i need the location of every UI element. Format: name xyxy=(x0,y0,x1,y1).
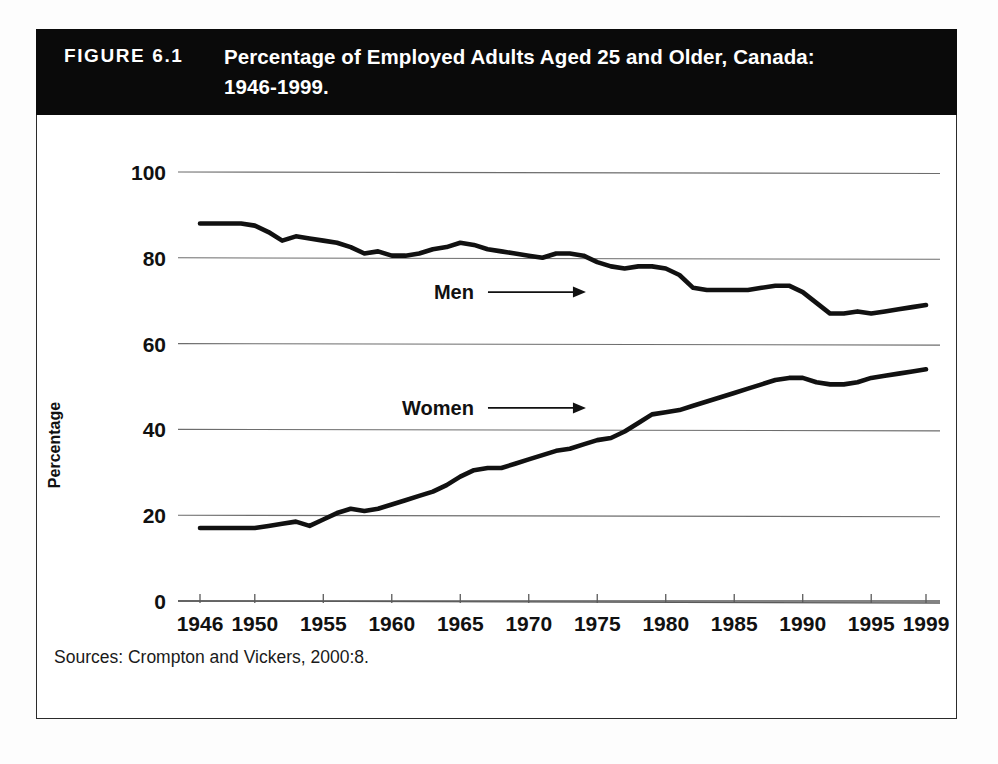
x-axis xyxy=(178,594,940,603)
series-annotations: MenWomen xyxy=(402,281,586,419)
y-tick-label: 40 xyxy=(143,418,166,441)
annotation-label-men: Men xyxy=(434,281,474,303)
x-tick-label: 1975 xyxy=(574,612,621,635)
x-tick-label: 1946 xyxy=(177,612,224,635)
x-tick-label: 1970 xyxy=(505,612,552,635)
x-tick-label: 1990 xyxy=(779,612,826,635)
series-line-men xyxy=(200,223,926,313)
x-tick-label: 1960 xyxy=(368,612,415,635)
y-tick-label: 0 xyxy=(154,590,166,613)
gridline-40 xyxy=(178,429,940,431)
y-tick-label: 60 xyxy=(143,333,166,356)
figure-title-line2: 1946-1999. xyxy=(224,72,815,102)
x-tick-label: 1999 xyxy=(903,612,950,635)
source-note: Sources: Crompton and Vickers, 2000:8. xyxy=(54,647,369,667)
x-tick-label: 1980 xyxy=(642,612,689,635)
x-tick-label: 1995 xyxy=(848,612,895,635)
x-tick-label: 1985 xyxy=(711,612,758,635)
gridline-80 xyxy=(178,258,940,260)
line-chart: 020406080100 194619501955196019651970197… xyxy=(36,115,957,719)
figure-title-banner: FIGURE 6.1 Percentage of Employed Adults… xyxy=(36,29,957,115)
x-tick-label: 1955 xyxy=(300,612,347,635)
figure-title: Percentage of Employed Adults Aged 25 an… xyxy=(224,42,815,101)
series-line-women xyxy=(200,369,926,528)
x-axis-tick-labels: 1946195019551960196519701975198019851990… xyxy=(177,612,950,635)
annotation-arrow-head xyxy=(573,287,586,298)
y-tick-label: 20 xyxy=(143,504,166,527)
x-tick-label: 1950 xyxy=(231,612,278,635)
x-tick-label: 1965 xyxy=(437,612,484,635)
figure-number: FIGURE 6.1 xyxy=(64,42,224,70)
figure-root: FIGURE 6.1 Percentage of Employed Adults… xyxy=(0,0,998,764)
y-tick-label: 80 xyxy=(143,247,166,270)
data-series xyxy=(200,223,926,528)
y-tick-label: 100 xyxy=(131,161,166,184)
y-axis-title: Percentage xyxy=(46,402,63,488)
y-axis-tick-labels: 020406080100 xyxy=(131,161,166,613)
figure-title-line1: Percentage of Employed Adults Aged 25 an… xyxy=(224,42,815,72)
gridline-20 xyxy=(178,515,940,517)
gridline-100 xyxy=(178,172,940,174)
annotation-label-women: Women xyxy=(402,397,474,419)
plot-area: 020406080100 194619501955196019651970197… xyxy=(36,115,957,719)
gridline-60 xyxy=(178,344,940,346)
annotation-arrow-head xyxy=(573,402,586,413)
